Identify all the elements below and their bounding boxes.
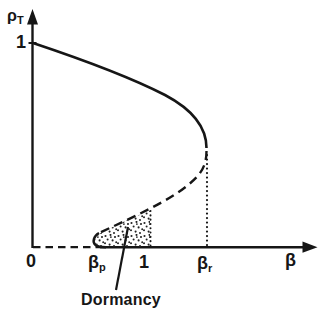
figure-canvas — [0, 0, 327, 318]
upper-stable-branch — [33, 43, 207, 148]
x-tick-label-one: 1 — [139, 253, 149, 271]
bifurcation-diagram: ρT 1 0 βp 1 βr β Dormancy — [0, 0, 327, 318]
beta-r-subscript: r — [208, 262, 212, 274]
y-axis-label: ρT — [7, 8, 24, 26]
x-axis-arrowhead — [303, 242, 318, 253]
beta-r-symbol: β — [197, 253, 208, 273]
origin-label: 0 — [26, 252, 36, 270]
middle-unstable-branch — [99, 151, 207, 233]
y-tick-label-one: 1 — [16, 33, 26, 51]
y-axis-arrowhead — [27, 9, 38, 25]
x-axis-label: β — [285, 251, 296, 269]
dormancy-label: Dormancy — [81, 292, 161, 308]
dormancy-stipple-region — [95, 211, 150, 247]
x-tick-label-beta-r: βr — [197, 254, 212, 274]
rho-subscript: T — [17, 14, 24, 26]
beta-p-subscript: p — [99, 261, 106, 273]
rho-symbol: ρ — [7, 7, 17, 24]
x-tick-label-beta-p: βp — [88, 253, 106, 273]
beta-p-symbol: β — [88, 252, 99, 272]
